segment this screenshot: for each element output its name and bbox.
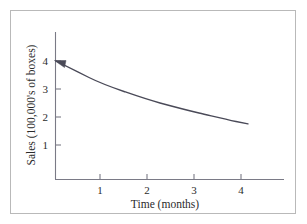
x-tick-label-1: 1 (97, 185, 103, 196)
sales-curve (56, 61, 248, 124)
y-tick-label-1: 1 (38, 140, 48, 151)
chart-page: 4 3 2 1 1 2 3 4 Time (months) Sales (100… (0, 0, 307, 224)
y-tick-label-4: 4 (38, 56, 48, 67)
y-axis-label: Sales (100,000's of boxes) (25, 45, 37, 166)
x-tick-label-4: 4 (238, 185, 244, 196)
y-axis-ticks (56, 61, 62, 145)
x-axis-label: Time (months) (131, 198, 199, 210)
y-tick-label-3: 3 (38, 84, 48, 95)
x-axis-ticks (100, 174, 241, 180)
x-tick-label-3: 3 (191, 185, 197, 196)
curve-start-arrowhead (55, 61, 67, 68)
x-tick-label-2: 2 (144, 185, 150, 196)
y-tick-label-2: 2 (38, 112, 48, 123)
